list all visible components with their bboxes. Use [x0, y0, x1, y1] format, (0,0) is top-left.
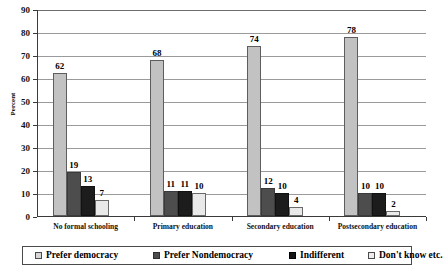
bar[interactable] [386, 211, 400, 216]
bar[interactable] [358, 193, 372, 216]
legend-swatch-icon [368, 252, 375, 259]
bar-value-label: 10 [186, 182, 212, 191]
y-tick-label: 0 [2, 213, 30, 222]
x-category-label: No formal schooling [37, 223, 134, 231]
bar-value-label: 68 [144, 49, 170, 58]
bar-value-label: 19 [61, 161, 87, 170]
legend-item-dont-know[interactable]: Don't know etc. [368, 251, 443, 261]
y-tick-label: 30 [2, 144, 30, 153]
x-tick-mark [426, 217, 427, 221]
legend-item-prefer-nondemocracy[interactable]: Prefer Nondemocracy [153, 251, 253, 261]
y-tick-mark [33, 125, 37, 126]
x-category-label: Secondary education [232, 223, 329, 231]
bar[interactable] [261, 188, 275, 216]
bar[interactable] [95, 200, 109, 216]
bar-value-label: 10 [269, 182, 295, 191]
x-tick-mark [134, 217, 135, 221]
legend-swatch-icon [153, 252, 160, 259]
bar-value-label: 4 [283, 196, 309, 205]
chart-legend: Prefer democracy Prefer Nondemocracy Ind… [22, 246, 412, 265]
x-category-label: Primary education [134, 223, 231, 231]
y-tick-label: 50 [2, 98, 30, 107]
bar[interactable] [289, 207, 303, 216]
legend-swatch-icon [289, 252, 296, 259]
y-tick-label: 60 [2, 75, 30, 84]
y-tick-mark [33, 102, 37, 103]
y-tick-label: 20 [2, 167, 30, 176]
bar-value-label: 2 [380, 200, 406, 209]
bar[interactable] [53, 73, 67, 216]
bar-value-label: 74 [241, 35, 267, 44]
y-tick-label: 70 [2, 52, 30, 61]
y-tick-mark [33, 171, 37, 172]
bar-value-label: 78 [338, 26, 364, 35]
bar-groups: 62191376811111074121047810102 [38, 10, 426, 216]
legend-swatch-icon [35, 252, 42, 259]
bar[interactable] [150, 60, 164, 216]
y-tick-mark [33, 194, 37, 195]
legend-label: Indifferent [300, 251, 344, 261]
y-tick-mark [33, 79, 37, 80]
bar-value-label: 13 [75, 175, 101, 184]
y-tick-label: 40 [2, 121, 30, 130]
bar-value-label: 10 [366, 182, 392, 191]
bar[interactable] [178, 191, 192, 216]
x-tick-mark [329, 217, 330, 221]
y-tick-label: 90 [2, 6, 30, 15]
y-tick-mark [33, 33, 37, 34]
bar[interactable] [247, 46, 261, 216]
y-tick-mark [33, 148, 37, 149]
bar[interactable] [164, 191, 178, 216]
legend-item-prefer-democracy[interactable]: Prefer democracy [35, 251, 118, 261]
bar-value-label: 7 [89, 189, 115, 198]
bar[interactable] [192, 193, 206, 216]
bar-value-label: 62 [47, 62, 73, 71]
y-tick-mark [33, 56, 37, 57]
legend-label: Prefer Nondemocracy [164, 251, 253, 261]
legend-item-indifferent[interactable]: Indifferent [289, 251, 344, 261]
legend-label: Don't know etc. [379, 251, 443, 261]
plot-area: 62191376811111074121047810102 [37, 10, 426, 217]
y-tick-label: 10 [2, 190, 30, 199]
x-tick-mark [232, 217, 233, 221]
y-tick-mark [33, 217, 37, 218]
y-tick-label: 80 [2, 29, 30, 38]
y-tick-mark [33, 10, 37, 11]
legend-label: Prefer democracy [46, 251, 118, 261]
x-category-label: Postsecondary education [329, 223, 426, 231]
